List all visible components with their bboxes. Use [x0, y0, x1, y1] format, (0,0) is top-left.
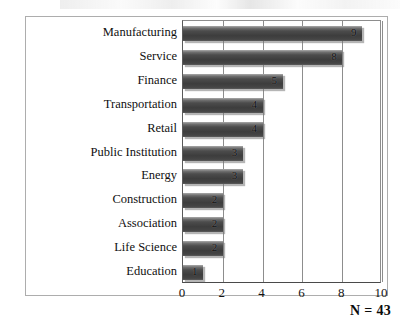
bar-value-label: 2 — [212, 242, 218, 253]
bar-value-label: 3 — [232, 147, 238, 158]
bar-row: 3 — [183, 169, 380, 183]
bar-value-label: 3 — [232, 171, 238, 182]
category-label: Transportation — [0, 98, 177, 111]
bar-row: 2 — [183, 241, 380, 255]
category-label: Construction — [0, 193, 177, 206]
bar-row: 1 — [183, 265, 380, 279]
bar-value-label: 5 — [272, 75, 278, 86]
category-label: Service — [0, 50, 177, 63]
category-label: Public Institution — [0, 146, 177, 159]
x-tick-label: 4 — [247, 286, 277, 299]
bar-series: 98544332221 — [183, 21, 380, 282]
bar-row: 3 — [183, 146, 380, 160]
x-tick-label: 0 — [167, 286, 197, 299]
bar-row: 5 — [183, 74, 380, 88]
bar-row: 4 — [183, 98, 380, 112]
bar-value-label: 2 — [212, 218, 218, 229]
bar-value-label: 4 — [252, 123, 258, 134]
x-tick-label: 6 — [286, 286, 316, 299]
bar-row: 4 — [183, 122, 380, 136]
plot-area: 98544332221 — [182, 20, 381, 283]
bar-value-label: 1 — [192, 266, 198, 277]
scan-artifact — [60, 0, 400, 9]
bar-row: 2 — [183, 217, 380, 231]
bar-row: 8 — [183, 50, 380, 64]
gridline — [382, 21, 383, 282]
bar-value-label: 8 — [331, 51, 337, 62]
bar-value-label: 4 — [252, 99, 258, 110]
bar-row: 2 — [183, 193, 380, 207]
sample-size-annotation: N = 43 — [350, 303, 391, 319]
x-tick-label: 2 — [207, 286, 237, 299]
bar-value-label: 9 — [351, 27, 357, 38]
bar — [183, 26, 362, 41]
category-label: Energy — [0, 169, 177, 182]
category-label: Education — [0, 265, 177, 278]
category-label: Manufacturing — [0, 26, 177, 39]
x-tick-label: 8 — [326, 286, 356, 299]
category-label: Association — [0, 217, 177, 230]
category-label: Retail — [0, 122, 177, 135]
bar-chart-figure: ManufacturingServiceFinanceTransportatio… — [0, 0, 413, 335]
category-label: Life Science — [0, 241, 177, 254]
category-label: Finance — [0, 74, 177, 87]
bar — [183, 74, 283, 89]
bar — [183, 50, 342, 65]
bar-row: 9 — [183, 26, 380, 40]
x-tick-label: 10 — [366, 286, 396, 299]
bar-value-label: 2 — [212, 195, 218, 206]
